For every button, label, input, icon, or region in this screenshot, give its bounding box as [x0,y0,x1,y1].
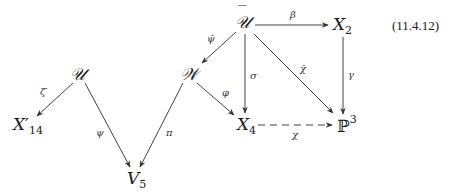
label-beta: β [290,10,296,20]
arrow-psi [85,83,130,167]
x14-sub: 14 [29,124,43,137]
equation-number: (11.4.12) [392,18,439,34]
node-u: 𝒰 [70,66,85,83]
label-pi: π [166,128,173,138]
v5-base: V [127,168,139,188]
node-v5: V5 [127,170,146,190]
node-x2: X2 [333,16,352,36]
node-u-bar: 𝒰 ‾ [235,14,250,31]
node-p3: ℙ3 [337,116,357,135]
diagram-arrows [0,0,460,195]
arrow-pi [140,83,183,167]
x4-base: X [237,114,249,134]
label-varphi: φ [222,88,229,98]
arrow-chi-bar [254,34,333,113]
u-symbol: 𝒰 [70,64,85,84]
w-symbol: 𝒲 [180,64,198,84]
x4-sub: 4 [249,124,256,137]
label-zeta-prime: ζ′ [40,87,48,97]
p3-sup: 3 [350,113,357,126]
v5-sub: 5 [139,178,146,191]
label-chi: χ [292,130,298,140]
label-psi-bar: ψ̄ [207,34,215,44]
p3-base: ℙ [337,116,350,136]
label-sigma: σ [250,71,257,81]
label-chi-bar: χ̄ [300,64,306,74]
node-x4: X4 [237,116,256,136]
node-w: 𝒲 [180,66,198,83]
x14-base: X [13,114,25,134]
label-psi: ψ [96,128,104,138]
label-gamma: γ [348,70,354,80]
x2-sub: 2 [345,24,352,37]
node-x14-prime: X′14 [13,116,43,136]
bar-accent: ‾ [238,4,247,21]
x2-base: X [333,14,345,34]
